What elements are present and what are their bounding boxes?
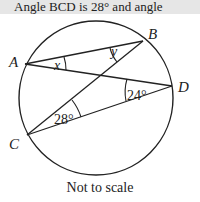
- angle-24-label: 24°: [127, 88, 147, 103]
- chord-ad: [25, 64, 172, 86]
- circle-diagram: A B C D x y 28° 24°: [0, 0, 200, 202]
- angle-28-label: 28°: [54, 112, 74, 127]
- angle-x-label: x: [53, 58, 61, 73]
- angle-y-label: y: [109, 44, 118, 59]
- point-c-label: C: [9, 136, 20, 152]
- chord-cd: [27, 86, 172, 135]
- chord-ab: [25, 41, 143, 64]
- point-d-label: D: [177, 79, 189, 95]
- circle: [19, 21, 173, 175]
- point-b-label: B: [148, 26, 157, 42]
- not-to-scale-note: Not to scale: [0, 180, 200, 196]
- point-a-label: A: [8, 54, 19, 70]
- angle-arc-x: [64, 57, 66, 70]
